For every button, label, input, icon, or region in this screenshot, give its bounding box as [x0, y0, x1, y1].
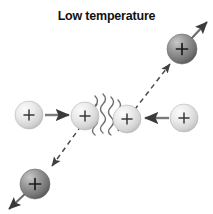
ion-center-right [113, 105, 141, 133]
arrow-top-right-outgoing [190, 22, 207, 40]
ion-center-left [71, 102, 99, 130]
ion-bottom-left [20, 169, 50, 199]
diagram-canvas [0, 0, 213, 214]
ion-left-incoming [15, 101, 43, 129]
arrow-bottom-left-outgoing [9, 193, 26, 209]
ion-right-incoming [170, 104, 198, 132]
ion-top-right [167, 34, 197, 64]
figure-container: Low temperature [0, 0, 213, 214]
